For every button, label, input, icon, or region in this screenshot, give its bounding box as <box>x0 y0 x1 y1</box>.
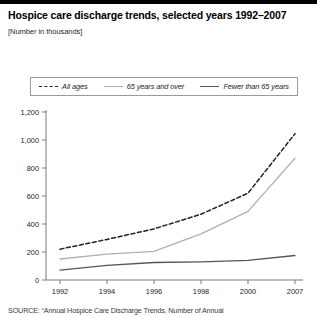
svg-text:0: 0 <box>35 276 39 285</box>
svg-text:1,000: 1,000 <box>21 136 40 145</box>
svg-text:800: 800 <box>27 164 39 173</box>
svg-text:1994: 1994 <box>99 287 115 296</box>
svg-text:1992: 1992 <box>52 287 68 296</box>
svg-text:1,200: 1,200 <box>21 108 40 117</box>
svg-text:1996: 1996 <box>146 287 162 296</box>
svg-text:200: 200 <box>27 248 39 257</box>
svg-text:600: 600 <box>27 192 39 201</box>
svg-text:2000: 2000 <box>240 287 256 296</box>
source-text: SOURCE: “Annual Hospice Care Discharge T… <box>8 306 223 315</box>
line-chart-svg: 02004006008001,0001,20019921994199619982… <box>0 0 317 317</box>
svg-text:400: 400 <box>27 220 39 229</box>
chart-plot-area: 02004006008001,0001,20019921994199619982… <box>0 0 317 317</box>
source-note: SOURCE: “Annual Hospice Care Discharge T… <box>8 306 317 317</box>
svg-text:1998: 1998 <box>193 287 209 296</box>
series-line-fewer-than-65-years <box>60 256 295 271</box>
series-line-all-ages <box>60 134 295 250</box>
svg-text:2007: 2007 <box>287 287 303 296</box>
series-line-65-years-and-over <box>60 158 295 259</box>
